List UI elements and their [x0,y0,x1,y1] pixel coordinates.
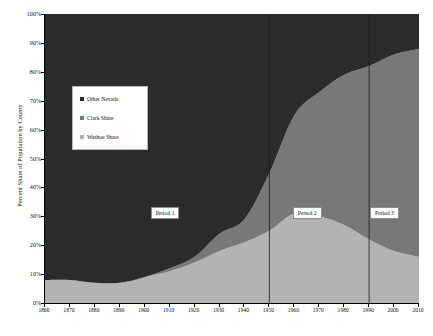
population-share-area-chart: Percent Share of Population by County 0%… [0,0,433,336]
y-tick-label: 50% [0,155,41,161]
legend-item-washoe-share: Washoe Share [80,134,119,140]
legend-swatch-clark-share [80,116,84,120]
y-tick-label: 10% [0,271,41,277]
y-tick-label: 80% [0,68,41,74]
y-tick-label: 30% [0,213,41,219]
x-tick-mark [169,304,170,307]
x-tick-mark [119,304,120,307]
y-tick-label: 60% [0,126,41,132]
legend-item-clark-share: Clark Share [80,115,114,121]
x-tick-mark [268,304,269,307]
x-tick-mark [243,304,244,307]
x-tick-mark [418,304,419,307]
x-tick-mark [293,304,294,307]
legend-swatch-other-nevada [80,97,84,101]
x-tick-mark [144,304,145,307]
y-tick-label: 40% [0,184,41,190]
legend-label-washoe-share: Washoe Share [87,134,119,140]
x-tick-label: 2010 [403,307,433,313]
period-label: Period 1 [151,207,180,219]
y-tick-label: 100% [0,11,41,17]
x-tick-mark [318,304,319,307]
y-axis-ticks: 0%10%20%30%40%50%60%70%80%90%100% [0,0,41,336]
legend-label-other-nevada: Other Nevada [87,96,118,102]
period-label: Period 3 [370,207,399,219]
period-label: Period 2 [293,207,322,219]
plot-area [44,14,419,304]
x-tick-mark [194,304,195,307]
x-tick-mark [69,304,70,307]
x-tick-mark [368,304,369,307]
x-tick-mark [94,304,95,307]
y-tick-label: 70% [0,97,41,103]
stacked-area-paths [45,14,419,303]
legend-swatch-washoe-share [80,135,84,139]
x-tick-mark [219,304,220,307]
legend-label-clark-share: Clark Share [87,115,114,121]
y-tick-label: 0% [0,300,41,306]
x-tick-mark [343,304,344,307]
y-tick-label: 20% [0,242,41,248]
x-tick-mark [393,304,394,307]
chart-legend: Other Nevada Clark Share Washoe Share [72,86,148,150]
x-tick-mark [44,304,45,307]
legend-item-other-nevada: Other Nevada [80,96,118,102]
y-tick-label: 90% [0,39,41,45]
